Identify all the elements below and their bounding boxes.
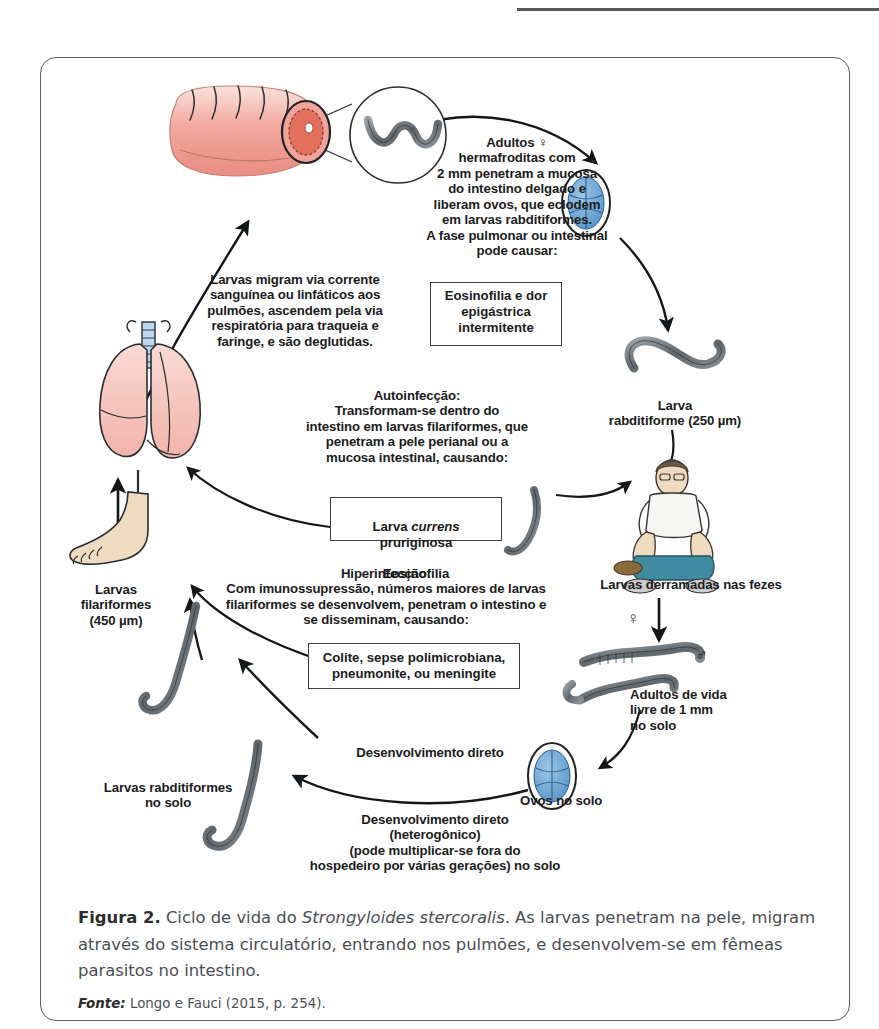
rhabditiform-larva-illustration [629, 341, 721, 368]
colitis-box: Colite, sepse polimicrobiana, pneumonite… [308, 643, 520, 689]
eosinophilia-box: Eosinofilia e dor epigástrica intermiten… [430, 282, 562, 346]
figure-caption: Figura 2. Ciclo de vida do Strongyloides… [78, 905, 820, 985]
figure-caption-label: Figura 2. [78, 908, 161, 927]
larva-currens-line1: Larva currens pruriginosa [339, 519, 493, 551]
filariform-larvae-label: Larvas filariformes (450 µm) [58, 582, 174, 628]
free-living-adults-label: Adultos de vida livre de 1 mm no solo [630, 687, 750, 733]
figure-source-label: Fonte: [78, 996, 126, 1011]
larva-currens-prefix: Larva [372, 519, 411, 534]
figure-source-text: Longo e Fauci (2015, p. 254). [126, 996, 326, 1011]
figure-caption-text-1: Ciclo de vida do [161, 908, 302, 927]
hyperinfection-description-text: Hiperinfecção: Com imunossupressão, núme… [210, 566, 562, 628]
larvae-shed-feces-label: Larvas derramadas nas fezes [572, 577, 810, 592]
direct-development-upper-label: Desenvolvimento direto [320, 745, 540, 760]
autoinfection-larva-illustration [508, 490, 537, 552]
direct-development-lower-label: Desenvolvimento direto (heterogônico) (p… [250, 812, 620, 874]
eggs-in-soil-label: Ovos no solo [520, 793, 650, 808]
male-symbol-adults: ♂ [688, 645, 714, 665]
rhabditiform-larva-label: Larva rabditiforme (250 µm) [590, 398, 760, 429]
figure-page: Adultos ♀ hermafroditas com 2 mm penetra… [0, 0, 879, 1029]
autoinfection-description-text: Autoinfecção: Transformam-se dentro do i… [288, 388, 546, 465]
larva-currens-species: currens [411, 519, 459, 534]
adults-description-text: Adultos ♀ hermafroditas com 2 mm penetra… [404, 135, 630, 259]
lifecycle-diagram: Adultos ♀ hermafroditas com 2 mm penetra… [0, 0, 879, 890]
female-symbol-adults: ♀ [620, 609, 646, 629]
figure-source: Fonte: Longo e Fauci (2015, p. 254). [78, 996, 820, 1011]
migration-description-text: Larvas migram via corrente sanguínea ou … [184, 272, 406, 349]
larva-currens-suffix: pruriginosa [380, 535, 453, 550]
foot-illustration [70, 470, 148, 564]
larva-currens-box: Larva currens pruriginosa Eosinofilia [330, 497, 502, 541]
person-defecating-illustration [614, 460, 718, 593]
rhabditiform-larvae-soil-label: Larvas rabditiformes no solo [88, 780, 248, 811]
figure-caption-species: Strongyloides stercoralis [302, 908, 505, 927]
